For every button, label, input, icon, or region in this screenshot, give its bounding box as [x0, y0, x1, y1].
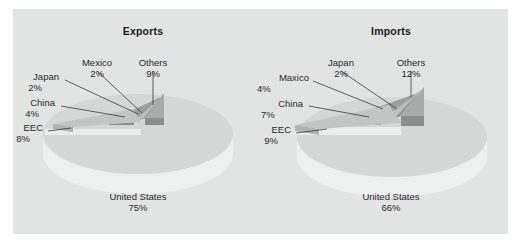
exports-label-united-states: United States 75% [88, 191, 188, 213]
exports-chart: Exports [13, 9, 273, 234]
imports-label-maxico: Maxico 4% [251, 72, 309, 94]
imports-label-others: Others 12% [385, 57, 437, 79]
chart-panel: Exports [13, 9, 508, 234]
screenshot-root: Exports [0, 0, 521, 249]
others-wedge-side [145, 117, 164, 125]
imports-label-china: China 7% [253, 98, 303, 120]
others-wedge-side [401, 115, 424, 126]
exports-label-japan: Japan 2% [11, 71, 59, 93]
imports-label-united-states: United States 66% [341, 191, 441, 213]
imports-chart: Imports Maxico [261, 9, 521, 234]
imports-label-eec: EEC 9% [251, 124, 291, 146]
exports-label-eec: EEC 8% [3, 122, 43, 144]
exports-label-others: Others 9% [127, 57, 179, 79]
exports-label-china: China 4% [9, 97, 55, 119]
exports-label-mexico: Mexico 2% [71, 57, 123, 79]
imports-label-japan: Japan 2% [315, 57, 367, 79]
